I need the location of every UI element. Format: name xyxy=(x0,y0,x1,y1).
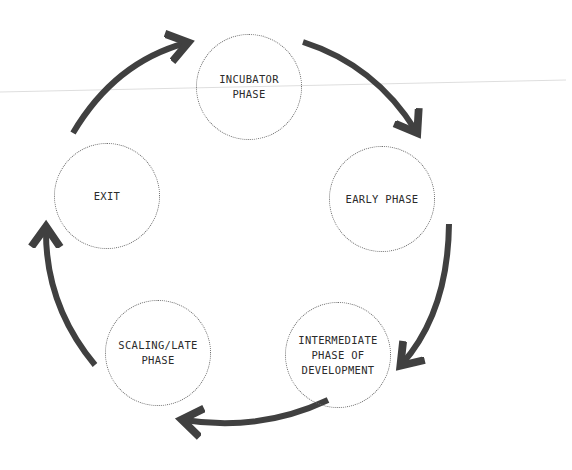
node-scaling-late-phase: SCALING/LATE PHASE xyxy=(105,300,211,406)
node-label: EXIT xyxy=(94,189,121,204)
cycle-diagram: INCUBATOR PHASE EARLY PHASE INTERMEDIATE… xyxy=(0,0,572,470)
arrow-early-to-intermediate xyxy=(402,224,449,364)
node-label: INCUBATOR PHASE xyxy=(219,72,279,102)
arrow-scaling-to-exit xyxy=(46,229,95,365)
arrow-intermediate-to-scaling xyxy=(184,400,328,423)
arrow-incubator-to-early xyxy=(303,42,416,131)
node-early-phase: EARLY PHASE xyxy=(329,146,435,252)
node-label: INTERMEDIATE PHASE OF DEVELOPMENT xyxy=(298,333,377,378)
node-label: SCALING/LATE PHASE xyxy=(118,338,197,368)
node-label: EARLY PHASE xyxy=(346,192,419,207)
node-exit: EXIT xyxy=(54,143,160,249)
node-incubator-phase: INCUBATOR PHASE xyxy=(196,34,302,140)
node-intermediate-phase: INTERMEDIATE PHASE OF DEVELOPMENT xyxy=(285,302,391,408)
